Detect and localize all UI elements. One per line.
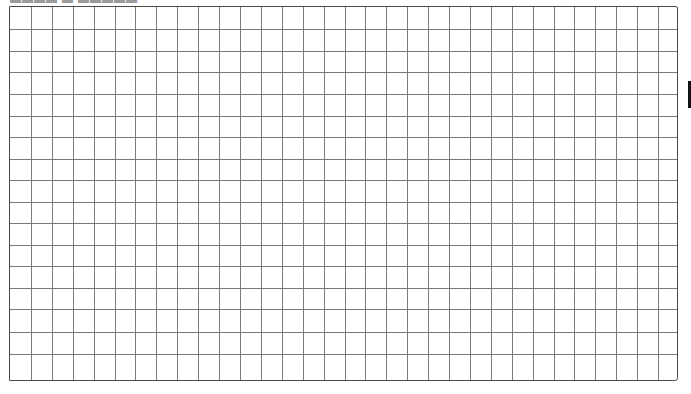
grid-lines [10,7,677,380]
graph-paper-grid [9,6,678,381]
clipped-header-text: ▬▬▬▬ ▬ ▬▬▬▬▬ [10,0,138,5]
